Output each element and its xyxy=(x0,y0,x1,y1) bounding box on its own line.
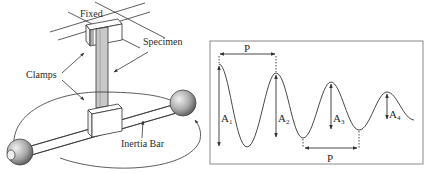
label-clamps: Clamps xyxy=(26,69,57,80)
label-inertia-bar: Inertia Bar xyxy=(121,138,165,149)
bottom-clamp xyxy=(88,104,122,137)
clamps-leader-top xyxy=(62,53,84,73)
diagram-canvas: Fixed Specimen Clamps Inertia Bar P P A1… xyxy=(0,0,428,174)
label-specimen: Specimen xyxy=(143,36,182,47)
label-period-bottom: P xyxy=(327,152,333,164)
label-period-top: P xyxy=(244,42,250,54)
inertia-bar-leader xyxy=(142,121,143,138)
clamps-leader-bottom xyxy=(62,80,84,100)
specimen-leader xyxy=(114,52,148,72)
label-fixed: Fixed xyxy=(80,8,103,19)
oscillation-frame xyxy=(210,41,423,164)
right-mass-sphere xyxy=(170,90,196,116)
specimen-strip xyxy=(96,27,108,108)
apparatus-drawing xyxy=(7,2,201,168)
